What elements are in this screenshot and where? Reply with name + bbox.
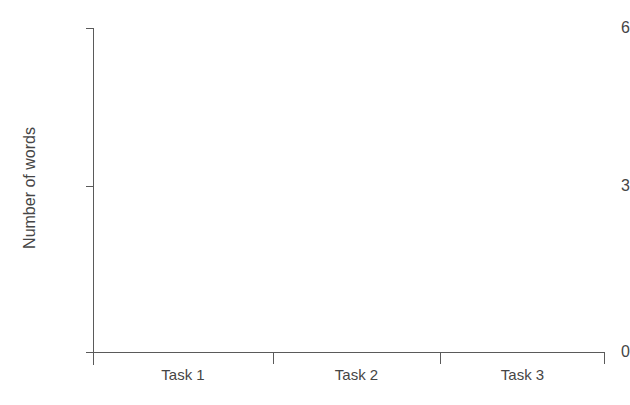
x-axis-line (86, 352, 605, 353)
y-axis-title: Number of words (22, 98, 38, 278)
x-axis-category-label-task-1: Task 1 (93, 366, 273, 384)
x-axis-tick-divider-2 (440, 352, 441, 364)
x-axis-category-label-task-3: Task 3 (440, 366, 605, 384)
x-axis-tick-divider-1 (273, 352, 274, 364)
plot-area (94, 28, 605, 352)
x-axis-category-label-task-2: Task 2 (273, 366, 440, 384)
y-axis-tick-6 (86, 28, 94, 29)
chart-figure: Number of words 6 3 0 Task 1 Task 2 Task… (0, 0, 630, 405)
y-axis-tick-3 (86, 186, 94, 187)
x-axis-tick-right-edge (604, 352, 605, 364)
